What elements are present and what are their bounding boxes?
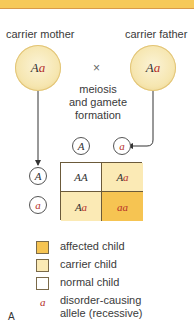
legend-swatch-affected (36, 241, 49, 254)
legend-label-normal: normal child (60, 276, 119, 288)
process-label: meiosis and gamete formation (68, 83, 128, 122)
panel-letter: A (8, 311, 15, 322)
punnett-cell-AA: AA (61, 163, 102, 192)
mother-circle: Aa (15, 45, 61, 91)
legend-label-affected: affected child (60, 240, 125, 252)
mother-gamete-recessive: a (29, 196, 47, 214)
father-gamete-dominant: A (72, 137, 90, 155)
punnett-cell-aa: aa (102, 192, 143, 221)
mother-genotype-recessive: a (39, 60, 46, 76)
punnett-square: AA Aa Aa aa (60, 162, 142, 220)
mother-genotype-dominant: A (31, 60, 39, 76)
punnett-cell-Aa-bottom: Aa (61, 192, 102, 221)
legend-allele-symbol: a (40, 296, 46, 308)
punnett-cell-Aa-top: Aa (102, 163, 143, 192)
legend-label-allele: disorder-causing allele (recessive) (60, 294, 143, 320)
father-circle: Aa (130, 45, 176, 91)
father-genotype-dominant: A (146, 60, 154, 76)
mother-label: carrier mother (6, 28, 74, 40)
mother-gamete-dominant: A (29, 167, 47, 185)
legend-label-carrier: carrier child (60, 258, 117, 270)
father-label: carrier father (125, 28, 187, 40)
father-genotype-recessive: a (154, 60, 161, 76)
legend-swatch-carrier (36, 259, 49, 272)
cross-symbol: × (93, 61, 100, 75)
legend-swatch-normal (36, 277, 49, 290)
father-gamete-recessive: a (113, 137, 131, 155)
